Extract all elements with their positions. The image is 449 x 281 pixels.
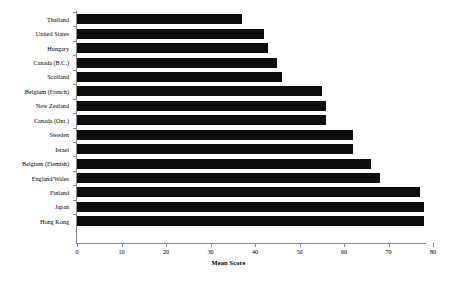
category-tick (73, 55, 77, 56)
plot-area (77, 12, 433, 243)
category-label: Scotland (0, 70, 72, 84)
x-axis-title: Mean Score (0, 259, 449, 266)
category-label: Canada (B.C.) (0, 55, 72, 69)
category-tick (73, 171, 77, 172)
category-tick (73, 200, 77, 201)
bar-row (77, 84, 433, 98)
category-tick (73, 99, 77, 100)
category-label: Belgium (French) (0, 84, 72, 98)
category-tick (73, 84, 77, 85)
category-label: Israel (0, 142, 72, 156)
category-label: Finland (0, 185, 72, 199)
bar (77, 187, 420, 197)
category-tick (73, 113, 77, 114)
category-tick (73, 214, 77, 215)
bar (77, 101, 326, 111)
category-label: Hong Kong (0, 214, 72, 228)
value-axis-tick-mark (122, 243, 123, 247)
value-axis-tick-label: 60 (341, 249, 347, 255)
category-tick (73, 26, 77, 27)
category-tick (73, 70, 77, 71)
value-axis-tick-label: 0 (75, 249, 78, 255)
category-tick (73, 128, 77, 129)
bar-row (77, 142, 433, 156)
value-axis-tick-label: 20 (163, 249, 169, 255)
category-axis-labels: Thailand United States Hungary Canada (B… (0, 12, 72, 243)
value-axis-tick-mark (211, 243, 212, 247)
bar (77, 159, 371, 169)
bar-row (77, 55, 433, 69)
bar-row (77, 41, 433, 55)
bar-row (77, 185, 433, 199)
bar (77, 86, 322, 96)
value-axis-tick-mark (255, 243, 256, 247)
bar (77, 72, 282, 82)
bar (77, 130, 353, 140)
value-axis-tick-label: 40 (252, 249, 258, 255)
category-label: New Zealand (0, 99, 72, 113)
value-axis-tick-mark (344, 243, 345, 247)
bar-row (77, 214, 433, 228)
value-axis-tick-mark (77, 243, 78, 247)
category-tick (73, 41, 77, 42)
value-axis-tick-label: 80 (430, 249, 436, 255)
bar-row (77, 156, 433, 170)
category-label: England/Wales (0, 171, 72, 185)
value-axis-tick-label: 70 (385, 249, 391, 255)
value-axis-tick-label: 50 (296, 249, 302, 255)
category-tick (73, 185, 77, 186)
bar-row (77, 113, 433, 127)
bar (77, 202, 424, 212)
bar-row (77, 12, 433, 26)
category-label: Japan (0, 200, 72, 214)
category-tick (73, 12, 77, 13)
category-label: Belgium (Flemish) (0, 156, 72, 170)
category-label: Sweden (0, 128, 72, 142)
category-label: United States (0, 26, 72, 40)
value-axis-tick-mark (433, 243, 434, 247)
bar-row (77, 128, 433, 142)
value-axis-tick-label: 30 (207, 249, 213, 255)
bar (77, 58, 277, 68)
bar (77, 43, 268, 53)
bar-row (77, 171, 433, 185)
category-label: Canada (Ont.) (0, 113, 72, 127)
bar-row (77, 26, 433, 40)
value-axis-tick-mark (166, 243, 167, 247)
category-label: Thailand (0, 12, 72, 26)
bar-row (77, 200, 433, 214)
category-tick (73, 142, 77, 143)
bar-row (77, 70, 433, 84)
bar (77, 144, 353, 154)
x-axis-title-text: Mean Score (212, 259, 246, 266)
bar (77, 29, 264, 39)
value-axis-tick-mark (389, 243, 390, 247)
bar-chart-figure: Thailand United States Hungary Canada (B… (0, 0, 449, 281)
category-label: Hungary (0, 41, 72, 55)
category-tick (73, 156, 77, 157)
value-axis-tick-label: 10 (118, 249, 124, 255)
bar (77, 115, 326, 125)
value-axis-tick-mark (300, 243, 301, 247)
bar (77, 216, 424, 226)
bar (77, 14, 242, 24)
bar (77, 173, 380, 183)
bar-row (77, 99, 433, 113)
